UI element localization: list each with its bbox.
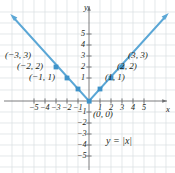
y-tick-label-neg1: −1 — [77, 108, 87, 116]
y-tick-label-neg4: −4 — [77, 141, 87, 149]
y-axis-label: y — [84, 3, 88, 12]
x-tick-label-neg5: −5 — [29, 104, 39, 112]
y-tick-label-1: 1 — [81, 74, 85, 82]
absolute-value-graph-figure: −5 −4 −3 −2 −1 1 2 3 4 5 5 4 3 2 1 −1 −2… — [0, 0, 175, 173]
y-tick-label-2: 2 — [81, 63, 85, 71]
point-label-neg3-3: (−3, 3) — [5, 51, 31, 60]
x-tick-label-3: 3 — [120, 104, 124, 112]
y-tick-label-3: 3 — [81, 52, 85, 60]
x-tick-label-neg4: −4 — [40, 104, 50, 112]
point-label-neg2-2: (−2, 2) — [17, 62, 43, 71]
data-point-marker — [54, 65, 59, 70]
x-tick-label-neg2: −2 — [62, 104, 72, 112]
grid-lines — [0, 0, 175, 173]
point-label-neg1-1: (−1, 1) — [29, 73, 55, 82]
point-label-1-1: (1, 1) — [105, 73, 125, 82]
point-label-0-0: (0, 0) — [93, 110, 113, 119]
y-tick-label-neg5: −5 — [77, 152, 87, 160]
equation-label: y = |x| — [106, 136, 132, 146]
x-tick-label-4: 4 — [131, 104, 135, 112]
x-tick-label-5: 5 — [142, 104, 146, 112]
x-tick-label-neg3: −3 — [51, 104, 61, 112]
y-tick-label-neg3: −3 — [77, 130, 87, 138]
coordinate-plane-svg — [0, 0, 175, 173]
y-tick-label-5: 5 — [81, 30, 85, 38]
y-tick-label-neg2: −2 — [77, 119, 87, 127]
x-axis-label: x — [166, 105, 170, 114]
point-label-3-3: (3, 3) — [128, 51, 148, 60]
data-point-marker — [98, 87, 103, 92]
y-tick-label-4: 4 — [81, 41, 85, 49]
data-point-marker — [65, 76, 70, 81]
data-point-marker — [87, 99, 92, 104]
point-label-2-2: (2, 2) — [117, 62, 137, 71]
data-point-marker — [76, 87, 81, 92]
